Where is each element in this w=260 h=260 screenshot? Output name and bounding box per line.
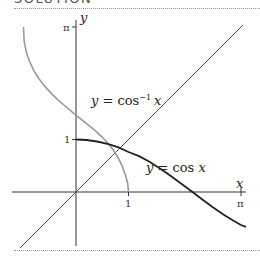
y-axis-label: y xyxy=(79,10,88,25)
arccos-label: y = cos−1x xyxy=(90,93,162,108)
cos-label: y = cos x xyxy=(145,160,206,175)
cos-curve-main xyxy=(76,140,246,227)
x-tick-one-label: 1 xyxy=(125,198,131,209)
line-y-equals-x xyxy=(20,25,243,248)
x-tick-pi-label: π xyxy=(237,198,244,209)
graph: π 1 1 π y x y = cos−1x y = cos x xyxy=(0,0,260,260)
y-tick-pi-label: π xyxy=(63,22,70,33)
x-axis-label: x xyxy=(236,176,244,191)
y-tick-one-label: 1 xyxy=(64,134,70,145)
